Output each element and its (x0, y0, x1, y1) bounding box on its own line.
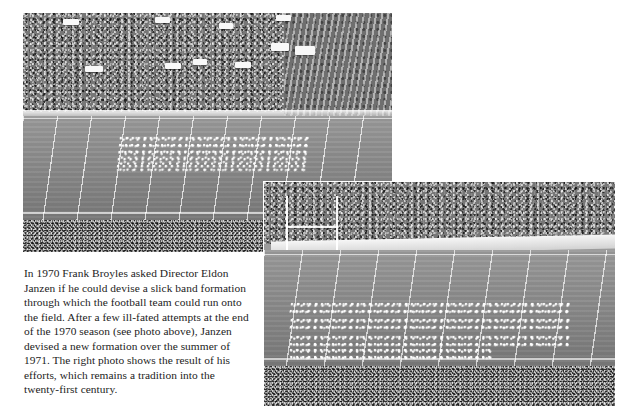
band-row (289, 302, 571, 315)
caption-line: In 1970 Frank Broyles asked Director Eld… (24, 266, 256, 281)
band-tunnel-formation (290, 302, 570, 360)
stand-awning (165, 63, 181, 69)
caption-line: efforts, which remains a tradition into … (24, 368, 256, 383)
band-row (290, 335, 571, 348)
sideline-stripe (264, 254, 615, 255)
right-stadium-photo: Black and white photograph of the stadiu… (263, 181, 616, 407)
caption-line: Janzen if he could devise a slick band f… (24, 281, 256, 296)
caption-line: 1971. The right photo shows the result o… (24, 353, 256, 368)
stand-awning (276, 15, 291, 21)
football-field (264, 250, 615, 368)
sideline-stripe (23, 118, 392, 119)
stand-awning (85, 66, 103, 72)
caption-line: of the 1970 season (see photo above), Ja… (24, 324, 256, 339)
photo-caption: In 1970 Frank Broyles asked Director Eld… (24, 266, 256, 397)
stand-awning (271, 43, 289, 51)
upper-bleachers (284, 13, 392, 117)
band-row (289, 318, 571, 331)
caption-line: devised a new formation over the summer … (24, 339, 256, 354)
stand-awning (295, 46, 315, 55)
stand-awning (235, 62, 251, 68)
foreground-crowd (264, 366, 615, 406)
stand-awning (63, 19, 79, 25)
stand-awning (219, 23, 233, 29)
caption-line: twenty-first century. (24, 382, 256, 397)
stand-awning (193, 59, 207, 65)
caption-line: through which the football team could ru… (24, 295, 256, 310)
marching-band-formation (116, 136, 310, 172)
band-row (290, 348, 492, 361)
page-scan: Black and white aerial photograph of a p… (0, 0, 633, 417)
caption-line: the field. After a few ill-fated attempt… (24, 310, 256, 325)
stand-awning (155, 17, 170, 23)
